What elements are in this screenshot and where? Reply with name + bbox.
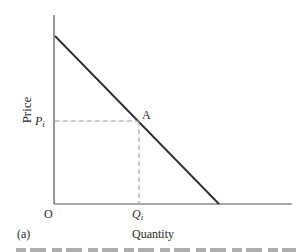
figure-caption-clipped bbox=[0, 246, 302, 252]
quantity-tick-label: Qi bbox=[132, 207, 144, 222]
chart-canvas: Price Pi A O Qi (a) Quantity bbox=[0, 0, 302, 252]
panel-label: (a) bbox=[17, 227, 30, 241]
demand-line bbox=[55, 36, 219, 204]
origin-label: O bbox=[44, 207, 53, 221]
caption-text-fragment bbox=[16, 248, 296, 252]
demand-curve-figure: Price Pi A O Qi (a) Quantity bbox=[0, 0, 302, 252]
y-axis-label: Price bbox=[19, 96, 34, 123]
x-axis-label: Quantity bbox=[132, 227, 174, 241]
point-a-label: A bbox=[142, 108, 151, 122]
price-tick-label: Pi bbox=[34, 114, 45, 129]
